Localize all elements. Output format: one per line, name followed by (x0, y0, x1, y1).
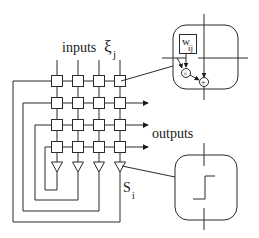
synapse-node (94, 120, 105, 131)
neuron-triangle (115, 162, 126, 172)
xi-symbol: ξ (104, 37, 112, 56)
s-symbol: S (123, 180, 131, 195)
neuron-output-label: S i (123, 180, 135, 201)
synapse-node (94, 76, 105, 87)
synapse-node (52, 98, 63, 109)
add-symbol: + (201, 78, 206, 87)
row-lines (13, 81, 120, 147)
synapse-node (52, 120, 63, 131)
synapse-node (73, 76, 84, 87)
synapse-node (115, 120, 126, 131)
multiply-symbol: × (183, 70, 187, 78)
inputs-text: inputs (62, 40, 96, 55)
neuron-leader-line (122, 166, 175, 177)
synapse-node (52, 76, 63, 87)
neuron-inset-frame (175, 155, 237, 220)
synapse-detail-inset: w ij × + (162, 14, 248, 100)
neuron-triangle (52, 162, 63, 172)
synapse-node (73, 98, 84, 109)
synapse-node (115, 76, 126, 87)
neuron-triangle (94, 162, 105, 172)
neuron-detail-inset (175, 143, 237, 230)
s-subscript: i (132, 190, 135, 201)
synapse-node (52, 142, 63, 153)
outputs-label: outputs (152, 126, 193, 141)
synapse-node (94, 142, 105, 153)
step-function-icon (193, 176, 215, 199)
synapse-node (94, 98, 105, 109)
synapse-leader-line (121, 66, 173, 81)
synapse-node (73, 120, 84, 131)
synapse-grid (52, 76, 126, 153)
xi-subscript: j (112, 48, 116, 60)
network-diagram: inputs ξ j outputs (0, 0, 259, 238)
neuron-triangle (73, 162, 84, 172)
synapse-node (115, 98, 126, 109)
synapse-node (115, 142, 126, 153)
weight-subscript: ij (188, 43, 193, 53)
inputs-label: inputs ξ j (62, 37, 116, 60)
synapse-node (73, 142, 84, 153)
output-arrows (126, 103, 148, 147)
neuron-amplifiers (52, 162, 126, 172)
